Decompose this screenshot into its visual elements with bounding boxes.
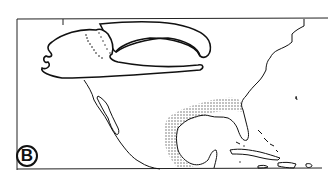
claw-drawing <box>42 22 211 78</box>
figure: B <box>0 0 328 178</box>
panel-label: B <box>16 145 38 167</box>
map-diagram <box>0 0 328 178</box>
distribution-stipple <box>164 98 244 168</box>
